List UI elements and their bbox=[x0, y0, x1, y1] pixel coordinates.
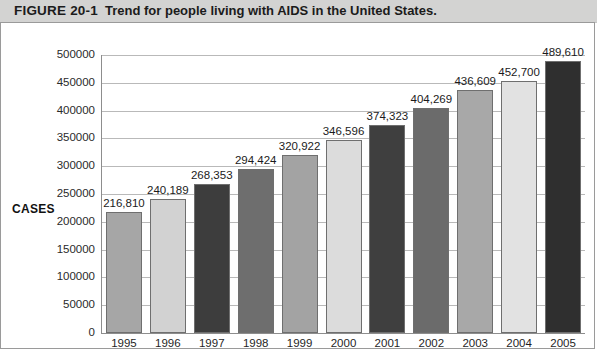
bar-value-label: 404,269 bbox=[401, 93, 461, 105]
x-axis-tick-label-1998: 1998 bbox=[234, 337, 278, 349]
plot-area: 216,810240,189268,353294,424320,922346,5… bbox=[102, 55, 585, 333]
bar-value-label: 216,810 bbox=[94, 197, 154, 209]
figure-caption-label: Trend for people living with AIDS in the… bbox=[105, 3, 437, 18]
bar-2000[interactable] bbox=[326, 140, 362, 333]
bar-value-label: 346,596 bbox=[314, 125, 374, 137]
bar-2004[interactable] bbox=[501, 81, 537, 333]
x-axis-tick-label-1995: 1995 bbox=[102, 337, 146, 349]
x-axis-tick-label-2004: 2004 bbox=[497, 337, 541, 349]
y-axis-tick-label: 450000 bbox=[33, 76, 95, 88]
bar-1995[interactable] bbox=[106, 212, 142, 333]
bar-value-label: 489,610 bbox=[533, 46, 593, 58]
x-axis-tick-label-1996: 1996 bbox=[146, 337, 190, 349]
bar-2001[interactable] bbox=[369, 125, 405, 333]
y-axis-tick-label: 250000 bbox=[33, 187, 95, 199]
bar-1998[interactable] bbox=[238, 169, 274, 333]
y-axis-tick-label: 200000 bbox=[33, 215, 95, 227]
y-axis-tick-label: 50000 bbox=[33, 298, 95, 310]
x-axis-tick-label-2005: 2005 bbox=[541, 337, 585, 349]
bar-value-label: 452,700 bbox=[489, 66, 549, 78]
x-axis-line bbox=[101, 333, 585, 334]
y-axis-tick-label: 400000 bbox=[33, 104, 95, 116]
bar-1996[interactable] bbox=[150, 199, 186, 333]
x-axis-tick-label-2002: 2002 bbox=[409, 337, 453, 349]
x-axis-tick-label-2000: 2000 bbox=[322, 337, 366, 349]
y-axis-title: CASES bbox=[12, 202, 55, 216]
bar-2003[interactable] bbox=[457, 90, 493, 333]
y-axis-tick-label: 500000 bbox=[33, 48, 95, 60]
bar-1999[interactable] bbox=[282, 155, 318, 333]
bar-value-label: 240,189 bbox=[138, 184, 198, 196]
y-axis-tick-label: 350000 bbox=[33, 131, 95, 143]
bar-1997[interactable] bbox=[194, 184, 230, 333]
bar-value-label: 320,922 bbox=[270, 140, 330, 152]
y-axis-tick-label: 0 bbox=[33, 326, 95, 338]
bar-value-label: 268,353 bbox=[182, 169, 242, 181]
y-axis-tick-label: 300000 bbox=[33, 159, 95, 171]
x-axis-tick-label-2003: 2003 bbox=[453, 337, 497, 349]
figure-title-bar: FIGURE 20-1 Trend for people living with… bbox=[0, 0, 597, 23]
figure-number-label: FIGURE 20-1 bbox=[14, 3, 98, 18]
x-axis-tick-label-1997: 1997 bbox=[190, 337, 234, 349]
figure-container: FIGURE 20-1 Trend for people living with… bbox=[0, 0, 597, 351]
bar-value-label: 294,424 bbox=[226, 154, 286, 166]
bar-2005[interactable] bbox=[545, 61, 581, 333]
bar-2002[interactable] bbox=[413, 108, 449, 333]
x-axis-tick-label-1999: 1999 bbox=[278, 337, 322, 349]
gridline bbox=[102, 55, 585, 56]
x-axis-tick-label-2001: 2001 bbox=[365, 337, 409, 349]
y-axis-tick-label: 100000 bbox=[33, 270, 95, 282]
bar-value-label: 374,323 bbox=[357, 110, 417, 122]
y-axis-tick-labels: 5000004500004000003500003000002500002000… bbox=[31, 55, 95, 333]
y-axis-tick-label: 150000 bbox=[33, 243, 95, 255]
chart-frame: 5000004500004000003500003000002500002000… bbox=[0, 22, 595, 349]
